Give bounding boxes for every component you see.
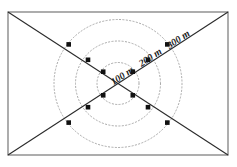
range-label-200m: 200 m: [136, 45, 164, 69]
station-marker: [86, 58, 91, 63]
station-marker: [66, 120, 71, 125]
diagram-canvas: 100 m200 m300 m: [0, 0, 237, 167]
range-label-300m: 300 m: [164, 27, 192, 51]
station-marker: [165, 120, 170, 125]
station-marker: [146, 105, 151, 110]
station-marker: [131, 93, 136, 98]
range-label-100m: 100 m: [108, 64, 135, 87]
range-ring-diagram: 100 m200 m300 m: [0, 0, 237, 167]
station-marker: [66, 42, 71, 47]
station-marker: [86, 105, 91, 110]
station-marker: [101, 93, 106, 98]
range-labels-group: 100 m200 m300 m: [108, 27, 191, 87]
station-marker: [101, 69, 106, 74]
